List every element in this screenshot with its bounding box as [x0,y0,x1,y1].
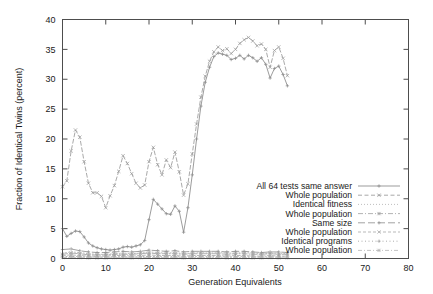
x-tick-label: 70 [360,263,370,273]
y-tick-label: 15 [45,164,55,174]
x-tick-label: 30 [187,263,197,273]
y-tick-label: 20 [45,134,55,144]
y-tick-label: 25 [45,104,55,114]
y-axis-title: Fraction of Identical Twins (percent) [14,68,24,210]
legend-entry-marker [377,249,380,252]
chart-background [0,0,433,294]
y-tick-label: 10 [45,194,55,204]
y-tick-label: 5 [50,224,55,234]
x-tick-label: 60 [317,263,327,273]
line-chart: 0510152025303540 01020304050607080 All 6… [0,0,433,294]
chart-figure: 0510152025303540 01020304050607080 All 6… [0,0,433,294]
x-tick-label: 80 [403,263,413,273]
y-tick-label: 0 [50,254,55,264]
y-tick-label: 40 [45,15,55,25]
x-tick-label: 20 [144,263,154,273]
y-tick-label: 35 [45,45,55,55]
x-axis-title: Generation Equivalents [188,277,282,287]
y-tick-label: 30 [45,74,55,84]
x-tick-label: 50 [274,263,284,273]
legend-entry-label: Whole population [286,245,353,255]
x-tick-label: 0 [60,263,65,273]
x-tick-label: 10 [101,263,111,273]
legend-entry-marker [377,212,380,215]
x-tick-label: 40 [230,263,240,273]
